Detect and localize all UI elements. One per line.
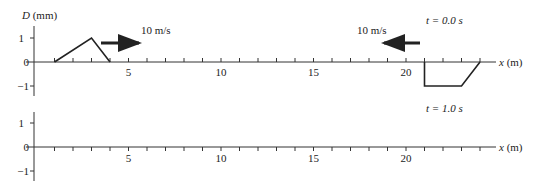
y-axis-label: D (mm) bbox=[21, 9, 57, 22]
y-tick-minus1: −1 bbox=[17, 80, 29, 92]
x-tick-20: 20 bbox=[401, 66, 413, 78]
x-tick-20-2: 20 bbox=[401, 152, 413, 164]
x-tick-15: 15 bbox=[308, 66, 320, 78]
y-tick-minus1-2: −1 bbox=[17, 165, 29, 177]
x-axis-label: x (m) bbox=[498, 56, 523, 69]
x-tick-10-2: 10 bbox=[216, 152, 228, 164]
x-ticks bbox=[55, 58, 481, 62]
panel-t1: 1 0 −1 5 10 15 20 x (m) t = 1.0 s bbox=[17, 102, 523, 181]
x-ticks-2 bbox=[55, 147, 481, 151]
panel-t0: D (mm) 1 0 −1 5 10 15 20 x (m) 1 bbox=[17, 9, 523, 96]
right-velocity-label: 10 m/s bbox=[141, 24, 171, 36]
x-tick-5-2: 5 bbox=[126, 152, 132, 164]
time-label-t1: t = 1.0 s bbox=[426, 102, 463, 114]
left-moving-pulse bbox=[425, 62, 481, 86]
pulse-diagram: D (mm) 1 0 −1 5 10 15 20 x (m) 1 bbox=[0, 0, 536, 193]
left-velocity-label: 10 m/s bbox=[357, 24, 387, 36]
x-tick-5: 5 bbox=[126, 66, 132, 78]
y-tick-1: 1 bbox=[19, 32, 25, 44]
x-axis-label-2: x (m) bbox=[498, 141, 523, 154]
time-label-t0: t = 0.0 s bbox=[426, 14, 463, 26]
x-tick-15-2: 15 bbox=[308, 152, 320, 164]
y-tick-1-2: 1 bbox=[19, 117, 25, 129]
x-tick-10: 10 bbox=[216, 66, 228, 78]
